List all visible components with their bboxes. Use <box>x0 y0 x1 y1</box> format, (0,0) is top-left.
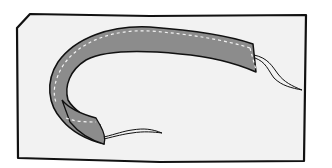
sewing-illustration <box>0 0 332 168</box>
illustration-canvas <box>0 0 332 168</box>
